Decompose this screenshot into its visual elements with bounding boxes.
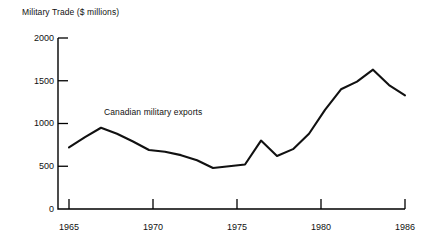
x-axis-ticks [69, 199, 405, 209]
chart-plot-area [0, 0, 440, 246]
data-series-line-canadian-military-exports [69, 70, 405, 168]
chart-container: Military Trade ($ millions) Canadian mil… [0, 0, 440, 246]
y-axis-ticks [58, 38, 68, 166]
chart-axes [58, 38, 405, 209]
